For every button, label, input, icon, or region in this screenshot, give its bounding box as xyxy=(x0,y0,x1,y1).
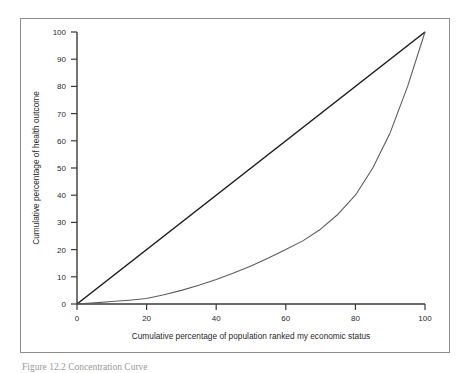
figure-frame: 0 10 20 30 40 50 60 70 80 90 100 xyxy=(20,18,450,353)
y-tick-label: 30 xyxy=(57,218,66,227)
y-tick-label: 80 xyxy=(57,82,66,91)
y-tick-label: 100 xyxy=(53,28,67,37)
y-tick-label: 0 xyxy=(62,300,67,309)
x-axis-title: Cumulative percentage of population rank… xyxy=(132,331,370,341)
figure-caption-strip: Figure 12.2 Concentration Curve xyxy=(22,362,442,373)
series-group xyxy=(77,32,425,304)
x-tick-label: 40 xyxy=(212,314,221,323)
y-tick-label: 10 xyxy=(57,273,66,282)
y-tick-label: 20 xyxy=(57,246,66,255)
y-axis-ticks xyxy=(71,32,77,304)
y-tick-label: 60 xyxy=(57,137,66,146)
y-tick-label: 70 xyxy=(57,110,66,119)
y-axis-tick-labels: 0 10 20 30 40 50 60 70 80 90 100 xyxy=(53,28,67,309)
y-tick-label: 90 xyxy=(57,55,66,64)
x-tick-label: 80 xyxy=(351,314,360,323)
x-tick-label: 20 xyxy=(142,314,151,323)
x-axis-tick-labels: 0 20 40 60 80 100 xyxy=(75,314,432,323)
y-tick-label: 40 xyxy=(57,191,66,200)
x-axis-ticks xyxy=(77,304,425,310)
x-tick-label: 60 xyxy=(281,314,290,323)
y-axis-title: Cumulative percentage of health outcome xyxy=(31,91,41,245)
figure-container: 0 10 20 30 40 50 60 70 80 90 100 xyxy=(0,0,464,373)
x-tick-label: 0 xyxy=(75,314,80,323)
figure-caption: Figure 12.2 Concentration Curve xyxy=(22,362,442,373)
x-tick-label: 100 xyxy=(418,314,432,323)
y-tick-label: 50 xyxy=(57,164,66,173)
concentration-curve-chart: 0 10 20 30 40 50 60 70 80 90 100 xyxy=(21,19,448,351)
